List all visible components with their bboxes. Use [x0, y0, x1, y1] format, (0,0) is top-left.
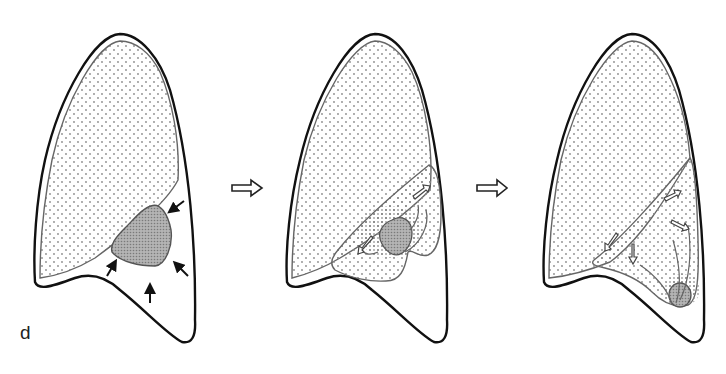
lung-stage-3	[544, 34, 705, 342]
lung-stage-1	[34, 34, 195, 342]
transition-arrow-icon	[477, 180, 507, 196]
panel-label: d	[20, 322, 31, 344]
lung-stage-2	[287, 34, 448, 342]
lung-diagram	[0, 0, 726, 374]
transition-arrow-icon	[232, 180, 262, 196]
